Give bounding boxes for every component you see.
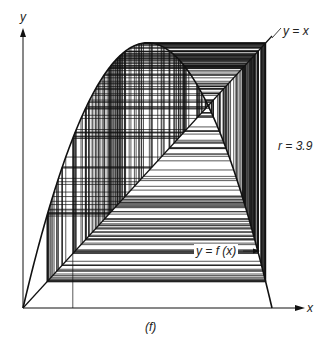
y-axis-arrow-icon [20,28,26,37]
cobweb-path [47,43,266,308]
curve-f-of-x [23,43,272,308]
cobweb-plot [0,0,332,351]
curve-label: y = f (x) [194,244,238,258]
parameter-label: r = 3.9 [278,139,312,153]
diagonal-label-leader [272,28,281,38]
x-axis-arrow-icon [295,305,305,311]
cobweb-lines [47,43,266,308]
x-axis-label: x [307,301,313,315]
panel-label: (f) [145,320,156,334]
y-axis-label: y [20,10,26,24]
diagonal-label: y = x [283,24,309,38]
